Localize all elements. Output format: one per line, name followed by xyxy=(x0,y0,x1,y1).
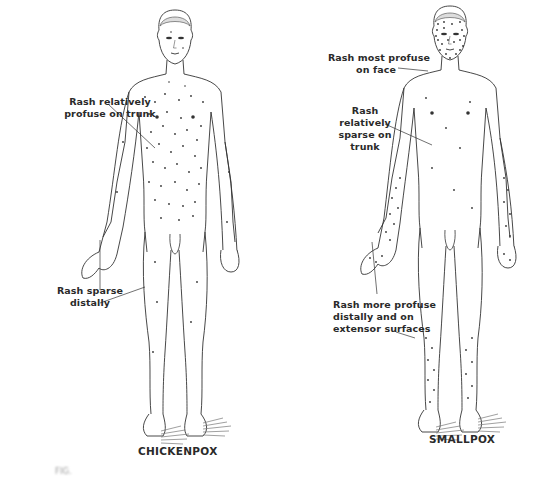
annotation-sparse-distally: Rash sparse distally xyxy=(50,285,130,309)
annotation-line: Rash relatively xyxy=(60,96,160,108)
medical-figure: Rash relatively profuse on trunk Rash sp… xyxy=(0,0,550,478)
annotation-line: distally xyxy=(50,297,130,309)
annotation-line: Rash most profuse xyxy=(310,52,430,64)
annotation-face-profuse: Rash most profuse on face xyxy=(310,52,430,76)
annotation-line: sparse on trunk xyxy=(330,129,400,153)
chickenpox-body-figure xyxy=(82,10,239,444)
annotation-line: on face xyxy=(310,64,430,76)
chickenpox-title: CHICKENPOX xyxy=(138,445,218,457)
annotation-line: Rash relatively xyxy=(330,105,400,129)
annotation-line: Rash more profuse xyxy=(333,299,443,311)
annotation-trunk-sparse: Rash relatively sparse on trunk xyxy=(330,105,400,153)
figure-caption: FIG. xyxy=(55,466,525,478)
annotation-distal-extensor: Rash more profuse distally and on extens… xyxy=(333,299,443,335)
annotation-line: Rash sparse xyxy=(50,285,130,297)
annotation-trunk-profuse: Rash relatively profuse on trunk xyxy=(60,96,160,120)
annotation-line: extensor surfaces xyxy=(333,323,443,335)
illustration xyxy=(0,0,550,478)
annotation-line: distally and on xyxy=(333,311,443,323)
smallpox-title: SMALLPOX xyxy=(429,433,495,445)
rash-spots xyxy=(116,31,230,353)
annotation-line: profuse on trunk xyxy=(60,108,160,120)
